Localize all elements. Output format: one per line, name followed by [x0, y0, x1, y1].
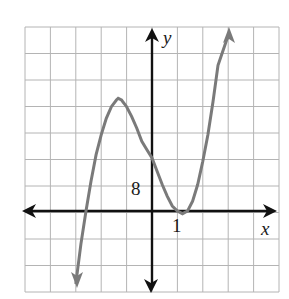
y-tick-label: 8 [131, 178, 141, 199]
x-axis [22, 204, 277, 218]
x-tick-label: 1 [172, 215, 182, 236]
y-axis-label: y [161, 27, 172, 48]
x-axis-label: x [260, 218, 270, 239]
curve-up-arrow-icon [223, 27, 235, 43]
cubic-function-graph: y x 8 1 [0, 0, 289, 299]
